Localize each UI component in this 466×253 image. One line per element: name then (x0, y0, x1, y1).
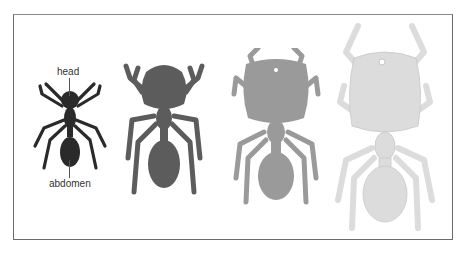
ant-2-silhouette (120, 58, 208, 198)
ant-3-silhouette (228, 48, 324, 208)
ant-4-silhouette (332, 22, 442, 234)
abdomen-label: abdomen (49, 179, 91, 189)
head-label: head (57, 67, 79, 77)
abdomen-leader-line (69, 160, 70, 178)
head-leader-line (69, 78, 70, 96)
ant-1-silhouette (32, 80, 108, 180)
